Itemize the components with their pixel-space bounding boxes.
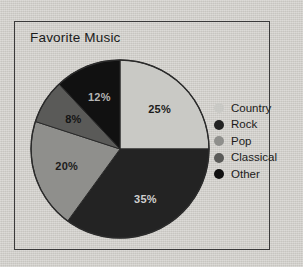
legend-item-label: Other — [231, 169, 260, 181]
pie-slice-label: 25% — [148, 103, 171, 115]
pie-slice-label: 12% — [88, 91, 111, 103]
legend-swatch-icon — [214, 136, 224, 146]
pie-slice-label: 20% — [55, 160, 78, 172]
legend-item-label: Rock — [231, 119, 257, 131]
legend-swatch-icon — [214, 153, 224, 163]
legend-item[interactable]: Pop — [214, 133, 300, 150]
legend-item[interactable]: Classical — [214, 150, 300, 167]
legend-item[interactable]: Country — [214, 100, 300, 117]
legend-item-label: Classical — [231, 152, 277, 164]
pie-slice-group — [31, 60, 209, 238]
pie-chart-svg: 25%35%20%8%12% — [29, 58, 211, 240]
legend-item[interactable]: Rock — [214, 117, 300, 134]
pie-chart: 25%35%20%8%12% — [29, 58, 211, 240]
pie-slice-label: 8% — [65, 113, 82, 125]
legend-item-label: Pop — [231, 136, 251, 148]
page-background: Favorite Music 25%35%20%8%12% CountryRoc… — [0, 0, 303, 267]
legend-item[interactable]: Other — [214, 166, 300, 183]
chart-title: Favorite Music — [30, 30, 121, 45]
legend-item-label: Country — [231, 103, 271, 115]
legend: CountryRockPopClassicalOther — [214, 100, 300, 183]
legend-swatch-icon — [214, 103, 224, 113]
legend-swatch-icon — [214, 169, 224, 179]
pie-slice-label: 35% — [134, 193, 157, 205]
legend-swatch-icon — [214, 120, 224, 130]
